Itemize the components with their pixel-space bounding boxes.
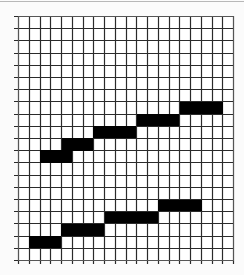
filled-bar — [158, 200, 202, 211]
filled-bar — [61, 224, 104, 236]
grid-canvas — [0, 0, 244, 275]
filled-bar — [105, 212, 158, 223]
filled-bar — [180, 102, 223, 114]
filled-bar — [137, 114, 179, 126]
filled-bar — [29, 236, 61, 248]
grid-figure — [0, 0, 244, 275]
filled-bar — [93, 126, 136, 138]
filled-bar — [40, 150, 72, 163]
filled-bar — [62, 138, 93, 151]
